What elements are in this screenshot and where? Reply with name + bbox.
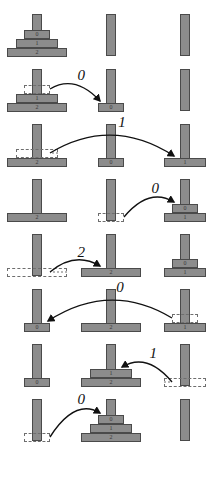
ghost-disc-outline	[7, 268, 67, 277]
disc-0[interactable]: 0	[24, 378, 50, 387]
peg-rod-icon	[106, 14, 116, 56]
peg-rod-icon	[180, 399, 190, 441]
peg-rod-icon	[180, 14, 190, 56]
disc-1[interactable]: 1	[16, 39, 58, 48]
disc-1[interactable]: 1	[90, 424, 132, 433]
disc-0[interactable]: 0	[172, 204, 198, 213]
disc-2[interactable]: 2	[81, 268, 141, 277]
disc-2[interactable]: 2	[81, 433, 141, 442]
peg-1[interactable]	[74, 170, 148, 225]
peg-1[interactable]: 21	[74, 335, 148, 390]
move-disc-label: 0	[116, 280, 124, 295]
peg-0[interactable]	[0, 390, 74, 445]
ghost-disc-outline	[98, 213, 124, 222]
disc-2[interactable]: 2	[7, 103, 67, 112]
disc-1[interactable]: 1	[164, 158, 206, 167]
peg-0[interactable]: 21	[0, 60, 74, 115]
peg-1[interactable]	[74, 5, 148, 60]
ghost-disc-outline	[164, 378, 206, 387]
peg-2[interactable]	[148, 390, 222, 445]
peg-2[interactable]: 10	[148, 170, 222, 225]
move-disc-label: 0	[152, 181, 160, 196]
disc-2[interactable]: 2	[7, 158, 67, 167]
hanoi-sequence-figure: 2102100201121002102021002112100	[0, 0, 222, 495]
move-disc-label: 2	[78, 245, 86, 260]
ghost-disc-outline	[24, 85, 50, 94]
ghost-disc-outline	[172, 314, 198, 323]
move-disc-label: 1	[150, 346, 158, 361]
peg-0[interactable]	[0, 225, 74, 280]
peg-rod-icon	[180, 69, 190, 111]
peg-0[interactable]: 210	[0, 5, 74, 60]
peg-0[interactable]: 0	[0, 280, 74, 335]
disc-0[interactable]: 0	[98, 415, 124, 424]
peg-2[interactable]	[148, 5, 222, 60]
disc-0[interactable]: 0	[172, 259, 198, 268]
peg-0[interactable]: 0	[0, 335, 74, 390]
peg-1[interactable]: 210	[74, 390, 148, 445]
hanoi-step-row: 2100	[0, 60, 222, 115]
hanoi-step-row: 0211	[0, 335, 222, 390]
disc-1[interactable]: 1	[164, 268, 206, 277]
hanoi-step-row: 2011	[0, 115, 222, 170]
peg-1[interactable]: 2	[74, 280, 148, 335]
disc-1[interactable]: 1	[164, 213, 206, 222]
disc-2[interactable]: 2	[7, 48, 67, 57]
move-disc-label: 0	[78, 68, 86, 83]
hanoi-step-row: 210	[0, 5, 222, 60]
disc-0[interactable]: 0	[24, 30, 50, 39]
move-disc-label: 1	[118, 115, 126, 130]
ghost-disc-outline	[16, 149, 58, 158]
hanoi-step-row: 0210	[0, 280, 222, 335]
peg-0[interactable]: 2	[0, 170, 74, 225]
peg-1[interactable]: 2	[74, 225, 148, 280]
hanoi-step-row: 2102	[0, 225, 222, 280]
peg-1[interactable]: 0	[74, 115, 148, 170]
disc-1[interactable]: 1	[164, 323, 206, 332]
hanoi-step-row: 2100	[0, 170, 222, 225]
peg-1[interactable]: 0	[74, 60, 148, 115]
peg-2[interactable]: 1	[148, 280, 222, 335]
hanoi-step-row: 2100	[0, 390, 222, 445]
move-disc-label: 0	[78, 392, 86, 407]
peg-2[interactable]	[148, 60, 222, 115]
peg-2[interactable]	[148, 335, 222, 390]
disc-2[interactable]: 2	[7, 213, 67, 222]
disc-0[interactable]: 0	[98, 158, 124, 167]
peg-0[interactable]: 2	[0, 115, 74, 170]
disc-2[interactable]: 2	[81, 323, 141, 332]
disc-2[interactable]: 2	[81, 378, 141, 387]
disc-1[interactable]: 1	[16, 94, 58, 103]
ghost-disc-outline	[24, 433, 50, 442]
peg-2[interactable]: 1	[148, 115, 222, 170]
disc-0[interactable]: 0	[98, 103, 124, 112]
disc-1[interactable]: 1	[90, 369, 132, 378]
disc-0[interactable]: 0	[24, 323, 50, 332]
peg-2[interactable]: 10	[148, 225, 222, 280]
